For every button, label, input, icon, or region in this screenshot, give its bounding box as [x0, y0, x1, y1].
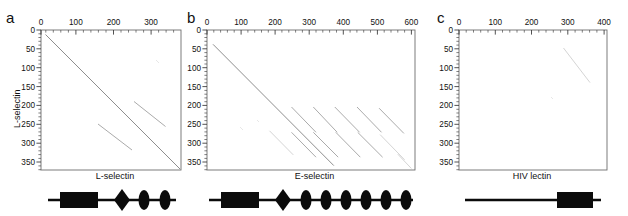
panel-b-repeat-2-upper	[313, 107, 337, 132]
panel-a-speck-1	[156, 60, 159, 63]
panel-a-domain-oval-2	[160, 190, 171, 210]
panel-b-ytick-3: 150	[187, 83, 201, 92]
panel-c-ytick-2: 100	[439, 64, 453, 73]
panel-b-xtick-1: 100	[234, 18, 248, 27]
panel-a-xtick-1: 100	[69, 18, 83, 27]
dot-plot-figure: a L-selectin L-selectin	[0, 0, 628, 216]
panel-b-domain-oval-6	[401, 190, 412, 210]
panel-b-speck-2	[257, 120, 259, 122]
panel-b-corner-tail	[398, 154, 412, 168]
panel-b-ytick-0: 0	[196, 26, 201, 35]
panel-a-ytick-2: 100	[21, 64, 35, 73]
panel-b-y-tick-labels: 0 50 100 150 200 250 300 350	[187, 26, 201, 167]
panel-b-x-tick-labels: 0 100 200 300 400 500 600	[205, 18, 419, 27]
panel-a-ytick-0: 0	[30, 26, 35, 35]
panel-a-domain-box	[60, 192, 98, 208]
panel-a-x-tick-labels: 0 100 200 300	[39, 18, 159, 27]
panel-b-repeat-4-upper	[357, 107, 382, 132]
panel-a-domain-diamond	[114, 189, 130, 211]
panel-b-plot-frame	[207, 30, 415, 170]
panel-b-repeat-3-lower	[313, 132, 338, 157]
panel-b-repeat-6-lower	[380, 135, 405, 160]
panel-a-data-segments	[46, 35, 181, 170]
panel-b-plot: 0 100 200 300 400 500 600	[185, 0, 435, 200]
panel-a-xtick-0: 0	[39, 18, 44, 27]
panel-c-x-tick-labels: 0 100 200 300 400	[457, 18, 612, 27]
panel-c-y-major-ticks	[454, 30, 459, 162]
panel-a: a L-selectin L-selectin	[0, 0, 190, 216]
panel-a-xtick-3: 300	[144, 18, 158, 27]
panel-c-xtick-3: 300	[561, 18, 575, 27]
panel-c-plot: 0 100 200 300 400	[435, 0, 628, 200]
panel-b-xtick-2: 200	[268, 18, 282, 27]
panel-b-data-segments	[213, 44, 411, 168]
panel-b: b E-selectin	[185, 0, 435, 216]
panel-b-ytick-2: 100	[187, 64, 201, 73]
panel-a-domain-diagram	[46, 186, 178, 214]
panel-c-ytick-6: 300	[439, 139, 453, 148]
panel-b-domain-oval-1	[301, 190, 312, 210]
panel-b-domain-diagram	[207, 186, 415, 214]
panel-c-y-tick-labels: 0 50 100 150 200 250 300 350	[439, 26, 453, 167]
panel-c-plot-frame	[459, 30, 607, 170]
panel-b-ytick-7: 350	[187, 158, 201, 167]
panel-a-xtick-2: 200	[107, 18, 121, 27]
panel-b-xtick-4: 400	[336, 18, 350, 27]
panel-b-repeat-1-upper	[292, 107, 317, 132]
panel-c-ytick-5: 250	[439, 120, 453, 129]
panel-c-xtick-1: 100	[488, 18, 502, 27]
panel-c-domain-box	[557, 192, 593, 208]
panel-b-repeat-2-lower	[292, 132, 317, 157]
panel-b-ytick-1: 50	[192, 45, 202, 54]
panel-c-ytick-3: 150	[439, 83, 453, 92]
panel-b-xtick-6: 600	[405, 18, 419, 27]
panel-b-repeat-5-lower	[358, 132, 383, 157]
panel-c-data-segments	[551, 48, 590, 99]
panel-b-x-major-ticks	[207, 30, 411, 35]
panel-c: c HIV lectin	[435, 0, 628, 216]
panel-a-ytick-5: 250	[21, 120, 35, 129]
panel-a-y-tick-labels: 0 50 100 150 200 250 300 350	[21, 26, 35, 167]
panel-c-ytick-1: 50	[444, 45, 454, 54]
panel-a-x-major-ticks	[41, 30, 151, 35]
panel-b-xtick-0: 0	[205, 18, 210, 27]
panel-b-speck-1	[240, 127, 243, 130]
panel-a-offdiag-lower	[98, 124, 132, 150]
panel-a-offdiag-upper	[134, 102, 166, 127]
panel-c-xtick-2: 200	[525, 18, 539, 27]
panel-b-domain-oval-2	[321, 190, 332, 210]
panel-b-y-major-ticks	[202, 30, 207, 162]
panel-b-repeat-3-upper	[335, 107, 360, 132]
panel-a-main-diagonal	[46, 35, 181, 170]
panel-b-main-diagonal	[213, 44, 334, 165]
panel-b-domain-diamond	[275, 189, 291, 211]
panel-a-ytick-3: 150	[21, 83, 35, 92]
panel-a-domain-oval-1	[139, 190, 150, 210]
panel-b-repeat-4-lower	[336, 132, 361, 157]
panel-b-domain-oval-3	[341, 190, 352, 210]
panel-a-ytick-1: 50	[26, 45, 36, 54]
panel-a-ytick-7: 350	[21, 158, 35, 167]
panel-c-domain-diagram	[463, 186, 603, 214]
panel-b-domain-box	[221, 192, 259, 208]
panel-a-y-major-ticks	[36, 30, 41, 162]
panel-c-ytick-4: 200	[439, 101, 453, 110]
panel-c-short-diagonal	[564, 48, 591, 83]
panel-b-repeat-5-upper	[379, 108, 404, 133]
panel-a-ytick-6: 300	[21, 139, 35, 148]
panel-b-ytick-5: 250	[187, 120, 201, 129]
panel-c-ytick-0: 0	[448, 26, 453, 35]
panel-a-ytick-4: 200	[21, 101, 35, 110]
panel-b-ytick-6: 300	[187, 139, 201, 148]
panel-c-speck-1	[551, 97, 553, 99]
panel-c-xtick-0: 0	[457, 18, 462, 27]
panel-b-domain-oval-4	[361, 190, 372, 210]
panel-b-repeat-1-lower	[270, 131, 294, 155]
panel-b-xtick-3: 300	[302, 18, 316, 27]
panel-c-ytick-7: 350	[439, 158, 453, 167]
panel-b-xtick-5: 500	[371, 18, 385, 27]
panel-b-domain-oval-5	[381, 190, 392, 210]
panel-c-xtick-4: 400	[597, 18, 611, 27]
panel-b-ytick-4: 200	[187, 101, 201, 110]
panel-a-plot: 0 100 200 300	[0, 0, 190, 200]
